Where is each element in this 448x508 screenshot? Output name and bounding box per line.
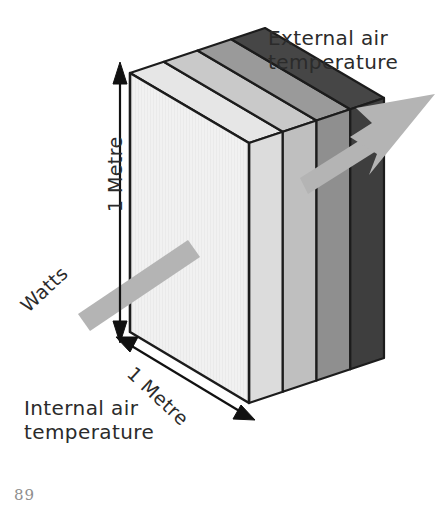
wall-heat-loss-diagram: External air temperature Internal air te…: [0, 0, 448, 508]
width-arrow-head-upper-left: [116, 337, 138, 352]
width-arrow-head-lower-right: [233, 405, 255, 420]
page-number: 89: [14, 486, 35, 504]
height-dimension-label: 1 Metre: [104, 136, 127, 212]
wall-slab: [130, 28, 384, 403]
height-arrow-head-top: [113, 62, 127, 84]
internal-air-temperature-label: Internal air temperature: [24, 396, 154, 445]
slab-side-layer-1: [249, 132, 283, 403]
slab-side-layer-2: [283, 121, 317, 392]
external-air-temperature-label: External air temperature: [268, 26, 398, 75]
